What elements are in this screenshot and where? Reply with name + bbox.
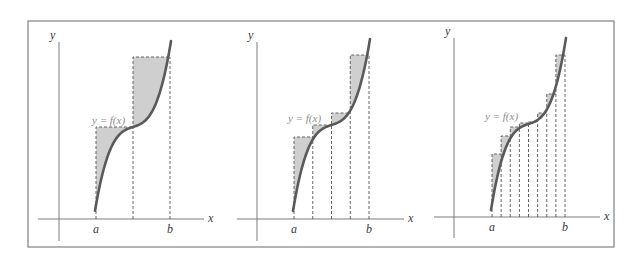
y-axis-label: y	[49, 28, 56, 42]
function-label: y = f(x)	[91, 114, 125, 127]
rectangle-outline	[519, 123, 528, 217]
rectangle-outline	[313, 125, 332, 219]
shaded-region	[96, 127, 133, 205]
rectangle-outline	[547, 94, 556, 217]
x-axis-label: x	[407, 211, 414, 225]
b-label: b	[562, 220, 568, 234]
a-label: a	[291, 222, 297, 236]
x-axis-label: x	[603, 209, 610, 223]
y-axis-label: y	[247, 28, 254, 42]
rectangle-outline	[510, 127, 519, 217]
rectangle-outlines	[492, 55, 565, 217]
rectangle-outline	[332, 113, 351, 219]
panel-8-rectangles: yxaby = f(x)	[434, 24, 610, 238]
y-axis-label: y	[444, 24, 451, 38]
function-label: y = f(x)	[287, 112, 321, 125]
b-label: b	[167, 222, 173, 236]
rectangle-outline	[529, 122, 538, 217]
b-label: b	[366, 222, 372, 236]
x-axis-label: x	[207, 211, 214, 225]
riemann-sum-figure: yxaby = f(x)yxaby = f(x)yxaby = f(x)	[0, 0, 642, 260]
a-label: a	[93, 222, 99, 236]
panel-2-rectangles: yxaby = f(x)	[38, 28, 214, 241]
panel-4-rectangles: yxaby = f(x)	[237, 28, 414, 241]
a-label: a	[489, 220, 495, 234]
panels-group: yxaby = f(x)yxaby = f(x)yxaby = f(x)	[38, 24, 610, 241]
function-label: y = f(x)	[484, 110, 518, 123]
rectangle-outline	[538, 113, 547, 217]
shaded-region	[133, 57, 170, 127]
